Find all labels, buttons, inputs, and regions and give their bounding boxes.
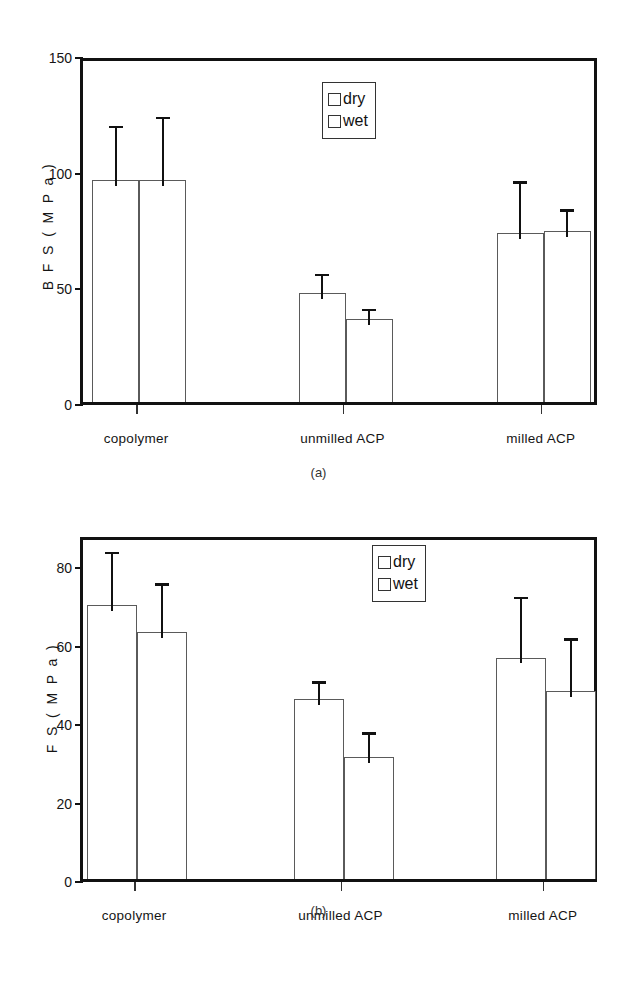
- legend-label-wet: wet: [343, 113, 368, 129]
- x-tick-mark: [136, 405, 138, 414]
- legend-label-wet: wet: [393, 576, 418, 592]
- bar-dry-copolymer: [92, 180, 139, 402]
- legend-swatch-dry-icon: [378, 556, 391, 569]
- legend-item-wet: wet: [328, 110, 368, 132]
- bar-wet-milled-ACP: [546, 691, 596, 879]
- y-tick-label: 0: [28, 397, 72, 413]
- error-bar-cap: [155, 583, 169, 586]
- error-bar-cap: [315, 274, 329, 277]
- y-tick-label: 100: [28, 166, 72, 182]
- legend-label-dry: dry: [343, 91, 365, 107]
- chart-panel-a: B F S ( M P a ) 050100150 copolymerunmil…: [0, 0, 637, 500]
- bar-dry-copolymer: [87, 605, 137, 879]
- error-bar-line: [162, 117, 164, 186]
- y-tick-label: 50: [28, 281, 72, 297]
- bar-dry-milled-ACP: [496, 658, 546, 880]
- x-tick-mark: [341, 882, 343, 891]
- legend-item-wet: wet: [378, 573, 418, 595]
- y-tick-label: 150: [28, 50, 72, 66]
- bar-wet-unmilled-ACP: [344, 757, 394, 879]
- error-bar-line: [115, 126, 117, 186]
- x-axis-category-label: milled ACP: [506, 431, 575, 446]
- error-bar-line: [520, 597, 522, 664]
- legend-swatch-wet-icon: [328, 115, 341, 128]
- bar-wet-unmilled-ACP: [346, 319, 393, 402]
- legend-swatch-dry-icon: [328, 93, 341, 106]
- legend-a: dry wet: [322, 82, 376, 139]
- error-bar-line: [111, 552, 113, 611]
- error-bar-cap: [109, 126, 123, 129]
- legend-item-dry: dry: [328, 88, 368, 110]
- legend-item-dry: dry: [378, 551, 418, 573]
- error-bar-cap: [312, 681, 326, 684]
- y-tick-label: 20: [28, 796, 72, 812]
- x-tick-mark: [343, 405, 345, 414]
- panel-caption-a: (a): [0, 465, 637, 480]
- error-bar-cap: [362, 732, 376, 735]
- error-bar-line: [566, 209, 568, 237]
- x-tick-mark: [541, 405, 543, 414]
- bar-dry-unmilled-ACP: [294, 699, 344, 879]
- error-bar-cap: [514, 597, 528, 600]
- x-tick-mark: [543, 882, 545, 891]
- error-bar-line: [321, 274, 323, 299]
- chart-panel-b: F S ( M P a ) 020406080 copolymerunmille…: [0, 500, 637, 1008]
- bar-dry-unmilled-ACP: [299, 293, 346, 402]
- x-axis-category-label: unmilled ACP: [300, 431, 385, 446]
- bar-wet-copolymer: [137, 632, 187, 879]
- error-bar-cap: [560, 209, 574, 212]
- error-bar-cap: [362, 309, 376, 312]
- y-tick-label: 40: [28, 717, 72, 733]
- y-tick-label: 80: [28, 560, 72, 576]
- error-bar-line: [570, 638, 572, 697]
- y-tick-label: 0: [28, 874, 72, 890]
- x-axis-category-label: copolymer: [104, 431, 169, 446]
- legend-label-dry: dry: [393, 554, 415, 570]
- bar-dry-milled-ACP: [497, 233, 544, 402]
- error-bar-cap: [105, 552, 119, 555]
- plot-area-b: [80, 537, 597, 882]
- error-bar-line: [368, 732, 370, 763]
- x-tick-mark: [134, 882, 136, 891]
- y-tick-label: 60: [28, 639, 72, 655]
- error-bar-cap: [513, 181, 527, 184]
- legend-swatch-wet-icon: [378, 578, 391, 591]
- error-bar-cap: [564, 638, 578, 641]
- bar-wet-copolymer: [139, 180, 186, 402]
- legend-b: dry wet: [372, 545, 426, 602]
- panel-caption-b: (b): [0, 903, 637, 918]
- error-bar-line: [519, 181, 521, 239]
- bar-wet-milled-ACP: [544, 231, 591, 402]
- error-bar-cap: [156, 117, 170, 120]
- error-bar-line: [318, 681, 320, 705]
- error-bar-line: [161, 583, 163, 638]
